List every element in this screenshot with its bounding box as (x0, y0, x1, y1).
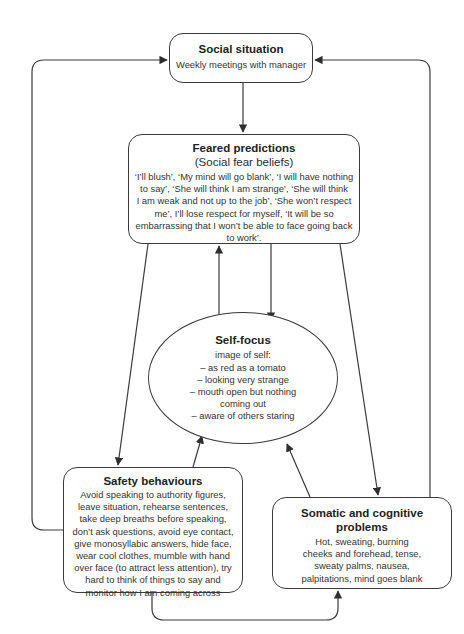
arrow-feared-to-safety (118, 244, 148, 465)
safety-behaviours-line: don’t ask questions, avoid eye contact, (64, 526, 242, 538)
feared-predictions-line: embarrassing that I won’t be able to fac… (129, 220, 359, 232)
safety-behaviours-line: give monosyllabic answers, hide face, (64, 538, 242, 550)
safety-behaviours-line: leave situation, rehearse sentences, (64, 501, 242, 513)
arrow-somatic-to-selffocus (287, 444, 310, 497)
self-focus-line: – aware of others staring (149, 410, 337, 422)
safety-behaviours-line: wear cool clothes, mumble with hand (64, 550, 242, 562)
self-focus-line: image of self: (149, 349, 337, 361)
feared-predictions-title: Feared predictions (129, 141, 359, 155)
self-focus-line: coming out (149, 398, 337, 410)
node-somatic-cognitive: Somatic and cognitive problems Hot, swea… (272, 497, 452, 589)
somatic-title-line: problems (273, 520, 451, 534)
arrow-somatic-to-social (315, 60, 452, 541)
self-focus-title: Self-focus (149, 333, 337, 347)
node-safety-behaviours: Safety behaviours Avoid speaking to auth… (63, 467, 243, 593)
feared-predictions-line: I am weak and not up to the job’, ‘She w… (129, 195, 359, 207)
somatic-line: Hot, sweating, burning (273, 536, 451, 548)
arrow-safety-to-social (32, 60, 167, 530)
somatic-title-line: Somatic and cognitive (273, 506, 451, 520)
safety-behaviours-line: Avoid speaking to authority figures, (64, 489, 242, 501)
node-social-situation: Social situation Weekly meetings with ma… (169, 33, 313, 83)
safety-behaviours-line: take deep breaths before speaking, (64, 513, 242, 525)
somatic-line: palpitations, mind goes blank (273, 573, 451, 585)
safety-behaviours-line: monitor how I am coming across (64, 587, 242, 599)
safety-behaviours-line: over face (to attract less attention), t… (64, 562, 242, 574)
social-situation-body: Weekly meetings with manager (170, 59, 312, 71)
feared-predictions-line: to say’, ‘She will think I am strange’, … (129, 183, 359, 195)
node-feared-predictions: Feared predictions (Social fear beliefs)… (128, 134, 360, 244)
somatic-line: cheeks and forehead, tense, (273, 548, 451, 560)
arrow-safety-to-selffocus (193, 436, 202, 467)
self-focus-line: – as red as a tomato (149, 362, 337, 374)
self-focus-line: – looking very strange (149, 374, 337, 386)
social-situation-title: Social situation (170, 42, 312, 56)
feared-predictions-subtitle: (Social fear beliefs) (129, 155, 359, 169)
feared-predictions-line: ‘I’ll blush’, ‘My mind will go blank’, ‘… (129, 171, 359, 183)
safety-behaviours-title: Safety behaviours (64, 474, 242, 488)
feared-predictions-line: to work’. (129, 232, 359, 244)
arrow-feared-to-somatic (340, 244, 378, 495)
feared-predictions-line: me’, I’ll lose respect for myself, ‘It w… (129, 208, 359, 220)
safety-behaviours-line: hard to think of things to say and (64, 574, 242, 586)
self-focus-line: – mouth open but nothing (149, 386, 337, 398)
node-self-focus: Self-focus image of self: – as red as a … (148, 312, 338, 444)
somatic-line: sweaty palms, nausea, (273, 560, 451, 572)
